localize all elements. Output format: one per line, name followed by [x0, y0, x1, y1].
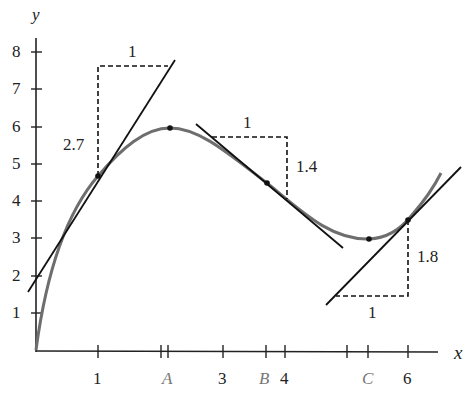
x-axis-label: x [454, 343, 462, 362]
x-tick-label-3: 3 [218, 370, 227, 387]
x-axis [36, 351, 438, 352]
function-curve [36, 128, 441, 350]
y-tick-label-8: 8 [12, 43, 21, 60]
tangent-2-run-label: 1 [243, 114, 252, 131]
y-tick-label-5: 5 [12, 155, 21, 172]
axes [36, 38, 438, 352]
x-tick-label-A: A [162, 370, 172, 387]
tangent-line-2 [196, 124, 343, 248]
y-tick-label-7: 7 [12, 80, 21, 97]
slope-triangle-1 [98, 66, 168, 176]
x-tick-label-C: C [362, 370, 373, 387]
x-tick-label-1: 1 [93, 370, 102, 387]
x-tick-label-4: 4 [280, 370, 289, 387]
x-tick-label-B: B [259, 370, 269, 387]
y-tick-label-6: 6 [12, 118, 21, 135]
y-tick-label-3: 3 [12, 229, 21, 246]
chart-plot [0, 0, 476, 403]
tangent-2-rise-label: 1.4 [296, 158, 317, 175]
y-tick-label-2: 2 [12, 267, 21, 284]
tangent-1-run-label: 1 [128, 43, 137, 60]
tangent-1-rise-label: 2.7 [63, 136, 84, 153]
curve-points [95, 125, 411, 242]
tangent-line-1 [28, 60, 175, 292]
x-tick-label-6: 6 [403, 370, 412, 387]
y-axis-label: y [32, 6, 40, 23]
tangent-3-rise-label: 1.8 [417, 248, 438, 265]
y-tick-label-4: 4 [12, 192, 21, 209]
tangent-3-run-label: 1 [368, 304, 377, 321]
y-tick-label-1: 1 [12, 304, 21, 321]
